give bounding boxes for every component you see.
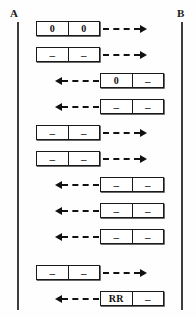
arrow-shaft xyxy=(62,210,99,212)
frame-box[interactable]: –– xyxy=(100,229,164,244)
frame-cell-first: – xyxy=(37,152,69,165)
sequence-diagram-canvas: A B 00––0–––––––––––––––RR– xyxy=(0,0,196,318)
arrow-shaft xyxy=(103,272,140,274)
frame-cell-second: – xyxy=(133,292,164,305)
frame-cell-second: – xyxy=(133,100,164,113)
arrow-left-dashed-icon xyxy=(55,233,99,241)
arrow-shaft xyxy=(103,28,140,30)
frame-cell-second: – xyxy=(133,178,164,191)
frame-box[interactable]: –– xyxy=(36,151,100,166)
frame-cell-second: – xyxy=(69,266,100,279)
arrow-left-dashed-icon xyxy=(55,181,99,189)
message-row: –– xyxy=(0,96,196,118)
arrow-left-dashed-icon xyxy=(55,295,99,303)
frame-cell-second: – xyxy=(69,152,100,165)
arrow-right-dashed-icon xyxy=(103,25,147,33)
arrow-shaft xyxy=(103,54,140,56)
arrow-head xyxy=(55,103,62,111)
arrow-right-dashed-icon xyxy=(103,51,147,59)
frame-box[interactable]: 00 xyxy=(36,21,100,36)
arrow-head xyxy=(55,181,62,189)
frame-cell-first: – xyxy=(37,48,69,61)
frame-box[interactable]: –– xyxy=(100,177,164,192)
arrow-head xyxy=(140,155,147,163)
arrow-shaft xyxy=(62,80,99,82)
message-row: –– xyxy=(0,200,196,222)
frame-cell-second: – xyxy=(133,230,164,243)
arrow-head xyxy=(140,25,147,33)
frame-cell-second: – xyxy=(133,204,164,217)
arrow-head xyxy=(140,269,147,277)
message-row: –– xyxy=(0,44,196,66)
frame-box[interactable]: –– xyxy=(100,99,164,114)
frame-cell-second: – xyxy=(69,126,100,139)
message-row: –– xyxy=(0,122,196,144)
arrow-right-dashed-icon xyxy=(103,129,147,137)
message-row: –– xyxy=(0,148,196,170)
arrow-head xyxy=(140,51,147,59)
frame-cell-first: 0 xyxy=(37,22,69,35)
arrow-shaft xyxy=(62,106,99,108)
message-row: 0– xyxy=(0,70,196,92)
arrow-shaft xyxy=(103,158,140,160)
arrow-left-dashed-icon xyxy=(55,77,99,85)
arrow-head xyxy=(140,129,147,137)
arrow-shaft xyxy=(62,184,99,186)
arrow-shaft xyxy=(103,132,140,134)
frame-box[interactable]: –– xyxy=(36,47,100,62)
frame-cell-first: – xyxy=(37,126,69,139)
arrow-head xyxy=(55,77,62,85)
frame-cell-first: – xyxy=(101,100,133,113)
frame-cell-first: – xyxy=(37,266,69,279)
arrow-head xyxy=(55,295,62,303)
frame-box[interactable]: –– xyxy=(36,125,100,140)
frame-cell-second: – xyxy=(133,74,164,87)
frame-cell-first: – xyxy=(101,230,133,243)
frame-cell-second: – xyxy=(69,48,100,61)
message-row: –– xyxy=(0,226,196,248)
frame-box[interactable]: –– xyxy=(100,203,164,218)
frame-cell-first: RR xyxy=(101,292,133,305)
arrow-left-dashed-icon xyxy=(55,103,99,111)
arrow-right-dashed-icon xyxy=(103,155,147,163)
frame-box[interactable]: 0– xyxy=(100,73,164,88)
frame-cell-first: 0 xyxy=(101,74,133,87)
message-row: –– xyxy=(0,262,196,284)
frame-cell-first: – xyxy=(101,204,133,217)
message-row: RR– xyxy=(0,288,196,310)
arrow-left-dashed-icon xyxy=(55,207,99,215)
message-row: –– xyxy=(0,174,196,196)
frame-cell-second: 0 xyxy=(69,22,100,35)
arrow-shaft xyxy=(62,236,99,238)
arrow-right-dashed-icon xyxy=(103,269,147,277)
arrow-head xyxy=(55,207,62,215)
frame-box[interactable]: –– xyxy=(36,265,100,280)
frame-box[interactable]: RR– xyxy=(100,291,164,306)
frame-cell-first: – xyxy=(101,178,133,191)
arrow-shaft xyxy=(62,298,99,300)
arrow-head xyxy=(55,233,62,241)
message-row: 00 xyxy=(0,18,196,40)
